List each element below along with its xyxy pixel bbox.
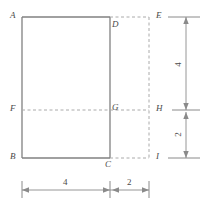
arrowhead-bottom-4v [183, 103, 188, 110]
arrowhead-top-4v [183, 17, 188, 24]
vertex-label-C: C [105, 160, 111, 169]
vertex-label-B: B [10, 152, 16, 161]
dimension-value-bottom-right: 2 [127, 178, 132, 187]
geometry-figure: A B C D E F G H I 4 2 4 2 [0, 0, 205, 214]
construction-lines [22, 17, 149, 158]
arrowhead-left-4 [22, 187, 29, 192]
dimension-value-right-lower: 2 [174, 132, 183, 137]
arrowhead-top-2v [183, 112, 188, 119]
dimension-value-bottom-left: 4 [63, 178, 68, 187]
vertex-label-D: D [112, 20, 119, 29]
rectangle-abcd [22, 17, 110, 158]
arrowhead-right-4 [103, 187, 110, 192]
arrowhead-bottom-2v [183, 151, 188, 158]
vertex-label-A: A [10, 11, 16, 20]
vertex-label-G: G [112, 103, 119, 112]
vertex-label-I: I [156, 152, 159, 161]
arrowhead-right-2 [142, 187, 149, 192]
figure-canvas [0, 0, 205, 214]
dimension-value-right-upper: 4 [174, 62, 183, 67]
vertex-label-H: H [156, 104, 163, 113]
vertex-label-F: F [10, 104, 16, 113]
right-dimension-group [168, 17, 200, 158]
vertex-label-E: E [156, 11, 162, 20]
arrowhead-left-2 [112, 187, 119, 192]
